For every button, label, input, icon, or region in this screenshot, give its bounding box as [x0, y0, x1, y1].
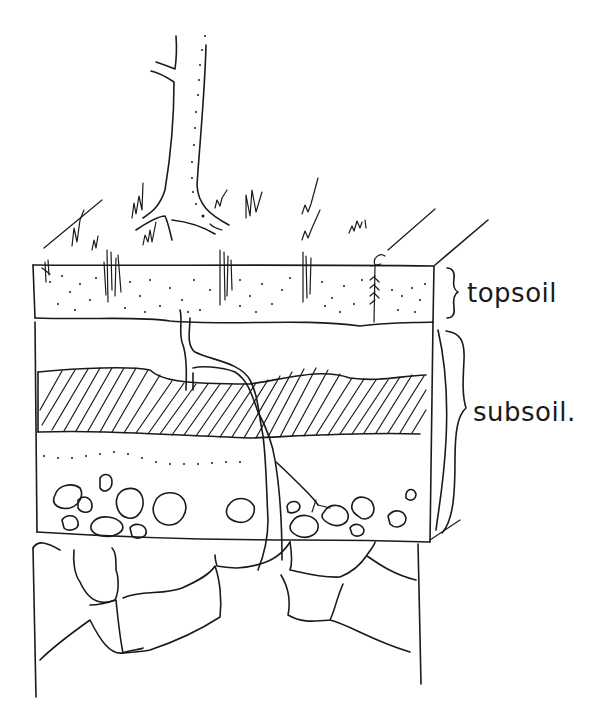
- topsoil-brace: [0, 0, 602, 717]
